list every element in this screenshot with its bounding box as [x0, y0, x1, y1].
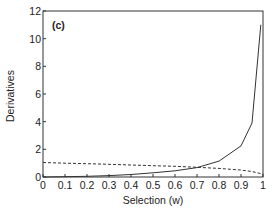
series-solid-line [43, 25, 261, 177]
x-tick-label: 0.7 [190, 179, 205, 191]
x-tick-label: 0.8 [212, 179, 227, 191]
y-tick-label: 8 [35, 60, 41, 72]
x-axis-label: Selection (w) [123, 194, 184, 206]
y-tick-label: 12 [29, 5, 41, 17]
x-tick-label: 0.9 [234, 179, 249, 191]
y-tick-label: 6 [35, 88, 41, 100]
y-tick-label: 10 [29, 33, 41, 45]
panel-label: (c) [52, 19, 65, 31]
x-tick-label: 1 [260, 179, 266, 191]
y-tick-label: 2 [35, 143, 41, 155]
x-tick-label: 0.5 [146, 179, 161, 191]
plot-axes [43, 11, 263, 177]
x-tick-label: 0.6 [168, 179, 183, 191]
y-axis-label: Derivatives [4, 70, 16, 122]
data-series [43, 25, 263, 177]
plot-frame [43, 11, 263, 177]
derivatives-chart: 00.10.20.30.40.50.60.70.80.91024681012 (… [0, 0, 280, 216]
x-tick-label: 0.4 [124, 179, 139, 191]
y-tick-label: 4 [35, 116, 41, 128]
y-tick-label: 0 [35, 171, 41, 183]
x-tick-label: 0.2 [80, 179, 95, 191]
x-tick-label: 0.1 [58, 179, 73, 191]
x-tick-label: 0.3 [102, 179, 117, 191]
